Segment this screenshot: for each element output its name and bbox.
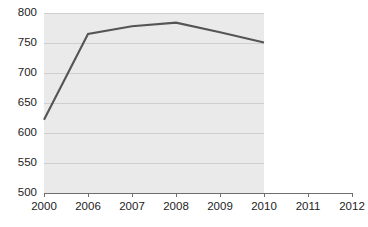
y-axis-tick-label: 550	[18, 156, 37, 168]
y-axis-tick-label: 800	[18, 6, 37, 18]
y-axis-tick-label: 700	[18, 66, 37, 78]
x-axis-tick-label: 2012	[339, 200, 365, 212]
y-axis-tick-label: 750	[18, 36, 37, 48]
line-chart: 500550600650700750800 200020062007200820…	[0, 0, 368, 227]
x-axis-tick-label: 2008	[163, 200, 189, 212]
x-axis-tick-label: 2009	[207, 200, 233, 212]
chart-canvas: 500550600650700750800 200020062007200820…	[0, 0, 368, 227]
y-axis-tick-label: 650	[18, 96, 37, 108]
x-axis-tick-label: 2010	[251, 200, 277, 212]
x-axis-tick-label: 2007	[119, 200, 145, 212]
y-axis-tick-label: 600	[18, 126, 37, 138]
y-axis-tick-label: 500	[18, 186, 37, 198]
x-axis-tick-label: 2000	[31, 200, 57, 212]
x-axis-tick-label: 2011	[296, 200, 321, 212]
x-axis-tick-label: 2006	[75, 200, 101, 212]
